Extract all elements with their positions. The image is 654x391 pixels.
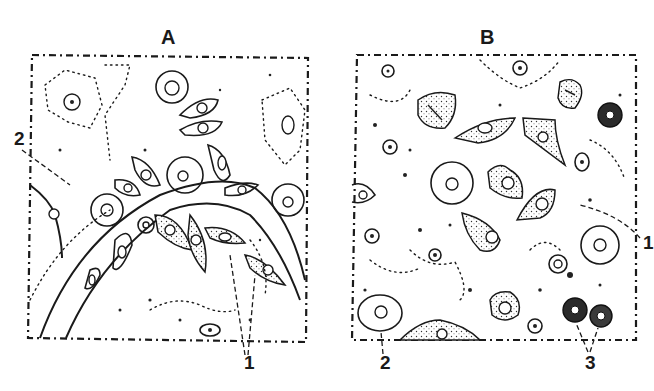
panel-a [22, 55, 308, 355]
panel-b [352, 55, 640, 354]
